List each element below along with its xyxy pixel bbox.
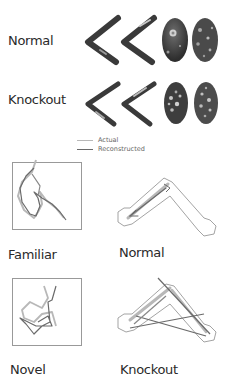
legend-swatch-actual bbox=[77, 140, 93, 141]
novel-trajectory-plot bbox=[12, 278, 82, 346]
normal-v-track-map-1 bbox=[82, 14, 122, 66]
row-label-normal: Normal bbox=[8, 33, 53, 48]
normal-oval-map-1 bbox=[160, 16, 190, 64]
legend-swatch-reconstructed bbox=[77, 149, 93, 150]
knockout-trajectory-plot bbox=[114, 276, 219, 346]
knockout-oval-map-2 bbox=[192, 80, 220, 126]
panel-label-novel: Novel bbox=[10, 362, 45, 377]
panel-label-familiar: Familiar bbox=[8, 247, 57, 262]
panel-label-knockout: Knockout bbox=[120, 362, 178, 377]
knockout-oval-map-1 bbox=[162, 80, 190, 126]
row-label-knockout: Knockout bbox=[8, 92, 66, 107]
legend-label-reconstructed: Reconstructed bbox=[98, 145, 145, 153]
normal-v-track-map-2 bbox=[118, 14, 158, 66]
familiar-trajectory-plot bbox=[12, 162, 82, 230]
legend-label-actual: Actual bbox=[98, 136, 118, 144]
knockout-v-track-map-1 bbox=[82, 80, 122, 128]
knockout-v-track-map-2 bbox=[118, 80, 158, 128]
normal-trajectory-plot bbox=[114, 174, 219, 238]
normal-oval-map-2 bbox=[190, 16, 220, 64]
panel-label-normal: Normal bbox=[119, 245, 164, 260]
